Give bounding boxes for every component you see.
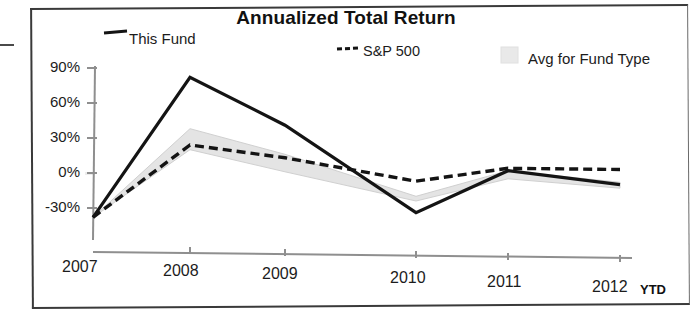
x-axis-label-ytd: YTD xyxy=(640,282,666,297)
x-axis-label-2007: 2007 xyxy=(62,258,98,276)
chart-plot-svg xyxy=(0,0,692,313)
legend-label-avg-fund-type: Avg for Fund Type xyxy=(528,50,650,67)
x-axis-label-2009: 2009 xyxy=(262,265,298,283)
x-axis-label-2012: 2012 xyxy=(592,278,628,296)
y-axis-label-30: 30% xyxy=(18,128,80,145)
x-axis-label-2011: 2011 xyxy=(487,273,521,291)
y-axis-label-60: 60% xyxy=(18,93,80,110)
y-axis-label-minus30: -30% xyxy=(18,198,80,215)
legend-label-sp500: S&P 500 xyxy=(363,43,420,59)
y-axis-label-0: 0% xyxy=(18,163,80,180)
annualized-total-return-chart: Annualized Total Return This Fund S&P 50… xyxy=(0,0,692,313)
legend-label-this-fund: This Fund xyxy=(129,30,196,47)
x-axis-label-2008: 2008 xyxy=(163,262,199,280)
chart-title: Annualized Total Return xyxy=(0,7,692,29)
x-axis-label-2010: 2010 xyxy=(390,269,426,287)
x-axis-line xyxy=(93,252,632,258)
legend-avg-fund-type-swatch xyxy=(501,47,518,63)
y-axis-label-90: 90% xyxy=(18,58,80,75)
legend-sp500-dash-swatch xyxy=(337,48,359,49)
legend-this-fund-line-swatch xyxy=(104,31,127,33)
